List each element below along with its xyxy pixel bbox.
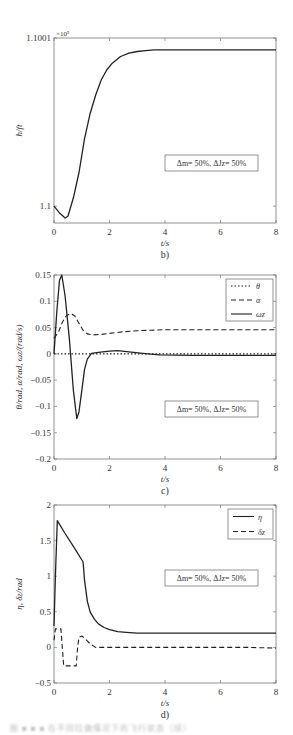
y-tick-label: 0.1 — [40, 296, 51, 306]
series-line-δz — [54, 629, 276, 666]
x-tick-label: 0 — [52, 463, 57, 473]
y-tick-label: 0 — [47, 642, 52, 652]
legend-label: η — [258, 513, 262, 522]
y-tick-label: 1.1 — [40, 201, 51, 211]
annotation-text: Δm= 50%, ΔJz= 50% — [177, 405, 247, 414]
x-axis-label: t/s — [161, 698, 170, 708]
y-tick-label: 0 — [47, 349, 52, 359]
x-tick-label: 8 — [274, 463, 279, 473]
figure-canvas: 024681.11.1001×10⁵t/sh/ftb)Δm= 50%, ΔJz=… — [0, 0, 293, 735]
x-tick-label: 8 — [274, 687, 279, 697]
y-axis-label: θ/rad, α/rad, ωz/(rad/s) — [14, 324, 24, 409]
legend-label: ωz — [256, 310, 266, 319]
y-tick-label: 2 — [47, 500, 52, 510]
x-tick-label: 0 — [52, 227, 57, 237]
x-tick-label: 4 — [163, 227, 168, 237]
x-tick-label: 2 — [107, 687, 112, 697]
x-tick-label: 2 — [107, 463, 112, 473]
x-tick-label: 4 — [163, 463, 168, 473]
y-tick-label: 1 — [47, 571, 52, 581]
y-tick-label: 0.15 — [35, 270, 51, 280]
x-tick-label: 0 — [52, 687, 57, 697]
y-tick-label: 0.05 — [35, 323, 51, 333]
panel-label: b) — [161, 249, 169, 261]
y-tick-label: 1.1001 — [26, 33, 51, 43]
y-tick-label: −0.15 — [30, 428, 51, 438]
y-tick-label: −0.05 — [30, 375, 51, 385]
y-axis-label: η, δz/rad — [14, 578, 24, 610]
x-tick-label: 6 — [218, 687, 223, 697]
annotation-text: Δm= 50%, ΔJz= 50% — [177, 574, 247, 583]
x-tick-label: 6 — [218, 463, 223, 473]
x-axis-label: t/s — [161, 238, 170, 248]
y-tick-label: −0.5 — [35, 678, 52, 688]
plot-area-b — [54, 38, 276, 223]
x-tick-label: 4 — [163, 687, 168, 697]
panel-label: c) — [161, 485, 169, 497]
legend-label: δz — [258, 528, 266, 537]
legend-label: θ — [256, 282, 260, 291]
x-tick-label: 6 — [218, 227, 223, 237]
figure-caption: 图 ■ ■ ■ 在不同拉偏情况下的飞行状态（续） — [10, 722, 285, 732]
y-tick-label: 0.5 — [40, 607, 52, 617]
y-tick-label: −0.2 — [35, 454, 51, 464]
y-tick-label: −0.1 — [35, 401, 51, 411]
y-axis-label: h/ft — [14, 124, 24, 137]
x-tick-label: 8 — [274, 227, 279, 237]
annotation-text: Δm= 50%, ΔJz= 50% — [177, 159, 247, 168]
series-line-h — [54, 50, 276, 218]
y-tick-label: 1.5 — [40, 536, 52, 546]
legend-box — [228, 509, 273, 539]
x-axis-label: t/s — [161, 474, 170, 484]
x-tick-label: 2 — [107, 227, 112, 237]
y-multiplier: ×10⁵ — [56, 30, 70, 38]
panel-label: d) — [161, 709, 169, 721]
